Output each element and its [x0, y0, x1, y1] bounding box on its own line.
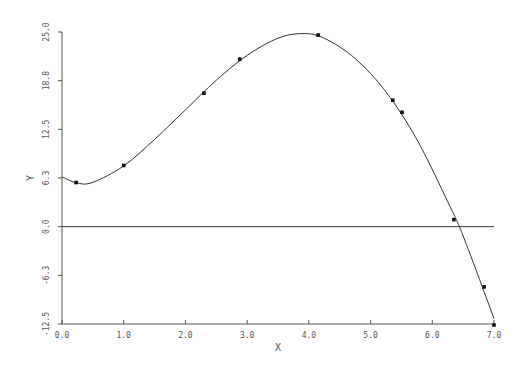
x-tick-label: 3.0 — [240, 331, 255, 340]
y-tick-label: 25.0 — [42, 22, 51, 41]
y-tick-label: 18.8 — [42, 71, 51, 90]
y-tick-label: 12.5 — [42, 120, 51, 139]
x-tick-label: 1.0 — [116, 331, 131, 340]
x-tick-label: 2.0 — [178, 331, 193, 340]
x-axis-ticks: 0.01.02.03.04.05.06.07.0 — [55, 320, 502, 340]
data-point-marker — [238, 57, 242, 61]
y-tick-label: 0.0 — [42, 219, 51, 234]
x-tick-label: 7.0 — [487, 331, 502, 340]
data-point-marker — [202, 91, 206, 95]
fitted-curve — [62, 34, 494, 319]
data-point-marker — [316, 33, 320, 37]
x-tick-label: 0.0 — [55, 331, 70, 340]
y-axis-label: Y — [25, 175, 36, 181]
data-points — [74, 33, 495, 327]
x-tick-label: 5.0 — [363, 331, 378, 340]
data-point-marker — [400, 110, 404, 114]
x-tick-label: 4.0 — [302, 331, 317, 340]
x-tick-label: 6.0 — [425, 331, 440, 340]
axes — [62, 32, 494, 324]
y-tick-label: -12.5 — [42, 312, 51, 336]
y-tick-label: -6.3 — [42, 266, 51, 285]
data-point-marker — [391, 98, 395, 102]
chart: 25.018.812.56.30.0-6.3-12.5 0.01.02.03.0… — [0, 0, 529, 372]
x-axis-label: X — [275, 342, 281, 353]
data-point-marker — [122, 164, 126, 168]
y-axis-ticks: 25.018.812.56.30.0-6.3-12.5 — [42, 22, 62, 336]
data-point-marker — [482, 285, 486, 289]
data-point-marker — [492, 323, 496, 327]
data-point-marker — [452, 218, 456, 222]
data-point-marker — [74, 181, 78, 185]
y-tick-label: 6.3 — [42, 171, 51, 186]
